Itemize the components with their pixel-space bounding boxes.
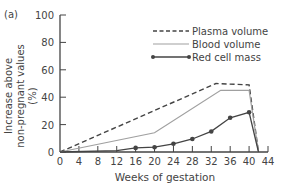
red-cell-mass-marker bbox=[209, 129, 214, 134]
y-tick-label: 60 bbox=[41, 65, 54, 76]
x-tick-label: 12 bbox=[110, 156, 123, 167]
red-cell-mass-marker bbox=[190, 137, 195, 142]
x-tick-label: 16 bbox=[129, 156, 142, 167]
x-tick-label: 28 bbox=[186, 156, 199, 167]
legend-marker bbox=[151, 55, 155, 59]
legend-label: Plasma volume bbox=[192, 26, 268, 37]
x-tick-label: 24 bbox=[167, 156, 180, 167]
legend: Plasma volumeBlood volumeRed cell mass bbox=[151, 26, 268, 63]
x-tick-label: 36 bbox=[224, 156, 237, 167]
legend-label: Blood volume bbox=[192, 39, 260, 50]
red-cell-mass-marker bbox=[133, 146, 138, 151]
chart-plot: 020406080100048121620242832364044 Plasma… bbox=[0, 0, 286, 190]
red-cell-mass-marker bbox=[247, 110, 252, 115]
x-tick-label: 8 bbox=[95, 156, 101, 167]
blood-volume-line bbox=[60, 90, 259, 152]
x-tick-label: 32 bbox=[205, 156, 218, 167]
red-cell-mass-marker bbox=[228, 115, 233, 120]
y-tick-label: 100 bbox=[35, 10, 54, 21]
y-tick-label: 80 bbox=[41, 37, 54, 48]
red-cell-mass-marker bbox=[152, 145, 157, 150]
legend-marker bbox=[187, 55, 191, 59]
series-lines bbox=[60, 84, 259, 153]
x-tick-label: 40 bbox=[243, 156, 256, 167]
red-cell-mass-marker bbox=[171, 141, 176, 146]
y-tick-label: 40 bbox=[41, 92, 54, 103]
x-tick-label: 0 bbox=[57, 156, 63, 167]
y-tick-label: 20 bbox=[41, 120, 54, 131]
legend-label: Red cell mass bbox=[192, 52, 261, 63]
x-tick-label: 44 bbox=[262, 156, 275, 167]
x-tick-label: 4 bbox=[76, 156, 82, 167]
y-tick-label: 0 bbox=[48, 147, 54, 158]
x-tick-label: 20 bbox=[148, 156, 161, 167]
